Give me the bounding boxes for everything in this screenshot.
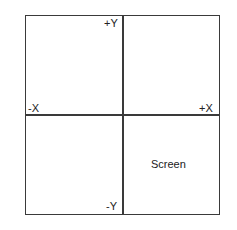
x-axis-line bbox=[25, 114, 220, 116]
positive-x-label: +X bbox=[199, 103, 213, 114]
negative-y-label: -Y bbox=[106, 201, 117, 212]
screen-quadrant-label: Screen bbox=[151, 159, 186, 170]
positive-y-label: +Y bbox=[104, 18, 118, 29]
negative-x-label: -X bbox=[28, 103, 39, 114]
